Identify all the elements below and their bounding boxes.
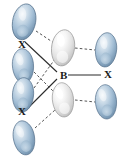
overlap-center-top-to-right1 [75,48,95,50]
orbital-right-1 [94,32,119,68]
orbital-center-top [49,28,77,67]
overlap-left2-to-center-bottom [34,72,55,93]
orbital-left-4 [11,119,38,157]
atom-label-x-bottom-left: X [18,106,26,117]
overlap-center-bottom-to-right2 [75,100,95,102]
orbital-right-2 [94,84,118,120]
orbital-center-bottom [51,82,76,118]
overlap-left1-to-center-top [36,31,54,43]
orbital-left-1 [9,2,39,42]
atom-label-b-center: B [60,70,67,81]
atom-label-x-top-left: X [18,39,26,50]
overlap-left4-to-center-bottom [35,110,55,128]
atom-label-x-right: X [104,69,112,80]
orbital-overlap-diagram: XBXX [0,0,123,157]
